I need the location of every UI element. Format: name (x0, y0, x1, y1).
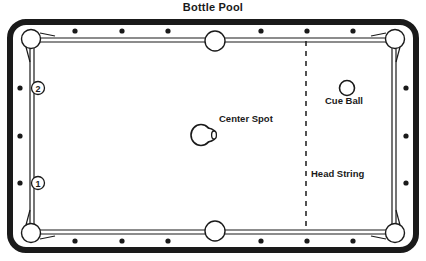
diamond-top-2 (119, 28, 124, 33)
diamond-right-1 (403, 85, 408, 90)
bottle-mouth (212, 131, 217, 139)
cue-ball-label: Cue Ball (325, 95, 363, 106)
head-string-label: Head String (311, 168, 364, 179)
center-spot-label: Center Spot (219, 113, 273, 124)
pocket-top-left (22, 30, 41, 49)
diamond-bottom-2 (119, 238, 124, 243)
pool-table-graphic: 2 1 (0, 0, 426, 261)
diamond-bottom-3 (165, 238, 170, 243)
diamond-top-4 (258, 28, 263, 33)
diamond-top-3 (165, 28, 170, 33)
pocket-bottom-center (205, 221, 225, 241)
pocket-top-right (386, 30, 405, 49)
pocket-bottom-right (386, 224, 405, 243)
marker-1-label: 1 (35, 179, 40, 189)
pocket-top-center (205, 31, 225, 51)
marker-1: 1 (32, 177, 45, 190)
cue-ball-icon (340, 81, 355, 96)
diamond-bottom-1 (72, 238, 77, 243)
diamond-top-5 (304, 28, 309, 33)
diamond-left-1 (17, 85, 22, 90)
diamond-top-6 (350, 28, 355, 33)
bottle-pool-diagram: Bottle Pool (0, 0, 426, 261)
marker-2: 2 (32, 82, 45, 95)
pocket-bottom-left (22, 224, 41, 243)
diamond-right-2 (403, 133, 408, 138)
diamond-left-3 (17, 180, 22, 185)
diamond-top-1 (72, 28, 77, 33)
diamond-bottom-6 (350, 238, 355, 243)
diamond-right-3 (403, 180, 408, 185)
diamond-left-2 (17, 133, 22, 138)
marker-2-label: 2 (35, 84, 40, 94)
diamond-bottom-5 (304, 238, 309, 243)
diamond-bottom-4 (258, 238, 263, 243)
